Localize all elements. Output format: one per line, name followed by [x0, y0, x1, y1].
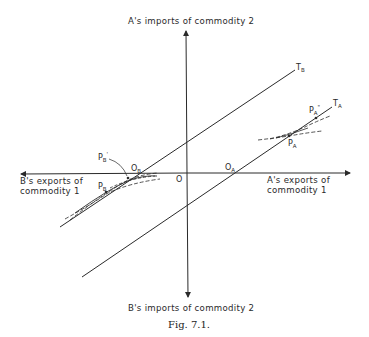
pb-prime-label: PB' [98, 151, 108, 163]
figure-7-1: A's imports of commodity 2 B's imports o… [0, 0, 369, 337]
bottom-axis-label: B's imports of commodity 2 [128, 303, 254, 313]
curve-b-solid [75, 176, 157, 213]
top-axis-label: A's imports of commodity 2 [128, 16, 254, 26]
curve-a-dashed-2 [270, 116, 330, 139]
left-axis-label-1: B's exports of [20, 176, 84, 186]
pb-label: PB [98, 182, 107, 192]
pa-label: PA [288, 139, 297, 149]
point-pa-dprime [315, 117, 318, 120]
ob-label: OB [131, 164, 141, 174]
figure-caption: Fig. 7.1. [168, 319, 210, 330]
right-axis-label-1: A's exports of [267, 175, 331, 185]
ta-label: TA [332, 99, 342, 109]
oa-label: OA [225, 163, 235, 173]
curve-b-dashed-1 [70, 173, 158, 220]
vertical-axis-down [187, 174, 188, 297]
right-axis-label-2: commodity 1 [267, 185, 327, 195]
trade-diagram: A's imports of commodity 2 B's imports o… [0, 0, 369, 337]
horizontal-axis-left [21, 173, 187, 174]
pa-dprime-label: PA" [309, 104, 320, 116]
point-pa [288, 135, 291, 138]
vertical-axis-up [186, 31, 187, 174]
tb-label: TB [295, 63, 305, 73]
point-pb-prime [127, 177, 130, 180]
left-axis-label-2: commodity 1 [20, 186, 80, 196]
line-tb [60, 70, 295, 227]
origin-label: O [176, 175, 182, 184]
curve-a-solid [276, 128, 308, 138]
